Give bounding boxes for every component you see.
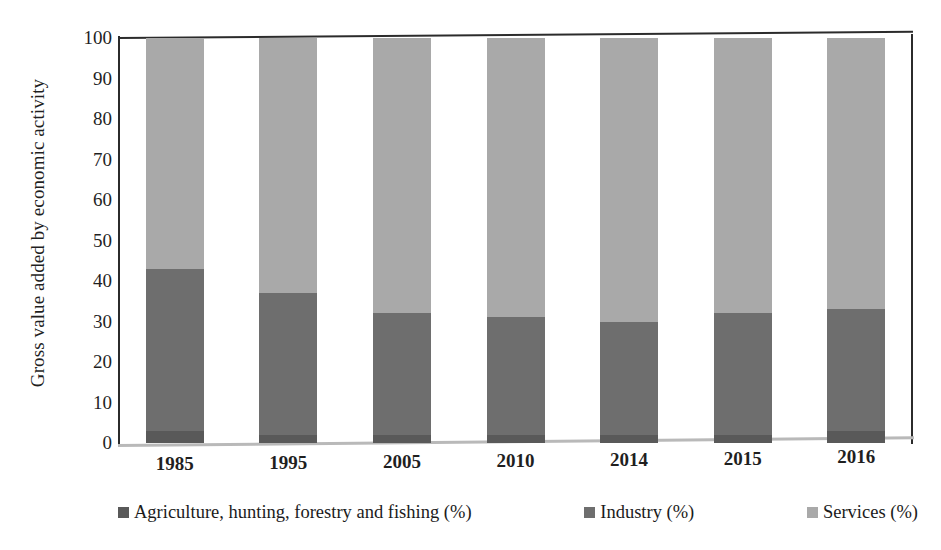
legend-item[interactable]: Services (%) (807, 502, 918, 522)
x-axis-tick-2010: 2010 (471, 449, 561, 473)
bar-group (487, 38, 545, 443)
x-axis-tick-1995: 1995 (243, 451, 333, 475)
bar-segment (259, 293, 317, 435)
y-axis-tick-70: 70 (62, 150, 112, 169)
x-axis-tick-labels: 1985199520052010201420152016 (118, 452, 913, 486)
bar-segment (373, 313, 431, 435)
x-axis-tick-2005: 2005 (357, 450, 447, 474)
y-axis-tick-60: 60 (62, 190, 112, 209)
x-axis-tick-2014: 2014 (584, 448, 674, 472)
bar-segment (146, 431, 204, 443)
legend-label: Services (%) (823, 502, 918, 522)
legend-item[interactable]: Industry (%) (584, 502, 694, 522)
y-axis-tick-50: 50 (62, 231, 112, 250)
legend-swatch-icon (584, 507, 595, 518)
y-axis-title: Gross value added by economic activity (27, 23, 49, 443)
legend-label: Industry (%) (600, 502, 694, 522)
y-axis-tick-0: 0 (62, 433, 112, 452)
y-axis-tick-30: 30 (62, 312, 112, 331)
bar-segment (714, 435, 772, 443)
bar-group (827, 38, 885, 443)
bar-group (600, 38, 658, 443)
bar-segment (487, 435, 545, 443)
bar-segment (827, 431, 885, 443)
y-axis-tick-80: 80 (62, 109, 112, 128)
chart-legend: Agriculture, hunting, forestry and fishi… (118, 497, 924, 527)
bar-segment (146, 38, 204, 269)
bar-segment (600, 38, 658, 322)
bar-segment (827, 309, 885, 431)
y-axis-tick-20: 20 (62, 352, 112, 371)
x-axis-tick-1985: 1985 (130, 452, 220, 476)
y-axis-tick-10: 10 (62, 393, 112, 412)
bar-segment (259, 38, 317, 293)
bar-segment (373, 435, 431, 443)
bar-segment (487, 317, 545, 434)
legend-item[interactable]: Agriculture, hunting, forestry and fishi… (118, 502, 472, 522)
bar-segment (487, 38, 545, 317)
bar-group (373, 38, 431, 443)
bar-segment (714, 38, 772, 313)
y-axis-tick-40: 40 (62, 271, 112, 290)
y-axis-tick-90: 90 (62, 69, 112, 88)
bar-group (259, 38, 317, 443)
legend-swatch-icon (118, 507, 129, 518)
legend-label: Agriculture, hunting, forestry and fishi… (134, 502, 472, 522)
bar-segment (714, 313, 772, 435)
bar-series-container (118, 38, 913, 443)
bar-segment (827, 38, 885, 309)
y-axis-tick-labels: 0102030405060708090100 (62, 0, 112, 550)
stacked-bar-chart: Gross value added by economic activity 0… (0, 0, 941, 550)
legend-swatch-icon (807, 507, 818, 518)
y-axis-tick-100: 100 (62, 28, 112, 47)
bar-segment (373, 38, 431, 313)
bar-segment (600, 322, 658, 435)
bar-segment (146, 269, 204, 431)
bar-segment (600, 435, 658, 443)
bar-group (714, 38, 772, 443)
bar-group (146, 38, 204, 443)
x-axis-tick-2016: 2016 (811, 445, 901, 469)
x-axis-tick-2015: 2015 (698, 447, 788, 471)
bar-segment (259, 435, 317, 443)
